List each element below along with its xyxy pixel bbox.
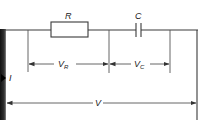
vr-label-sub: R bbox=[64, 64, 69, 70]
resistor-label: R bbox=[65, 11, 72, 21]
circuit-diagram: R C I VR VC V bbox=[0, 0, 204, 120]
resistor-symbol bbox=[51, 22, 88, 37]
vr-label: VR bbox=[58, 59, 69, 70]
v-total-label: V bbox=[95, 98, 102, 108]
capacitor-label: C bbox=[135, 11, 142, 21]
vc-label: VC bbox=[134, 59, 145, 70]
current-label: I bbox=[9, 73, 12, 83]
vc-label-sub: C bbox=[140, 64, 145, 70]
source-edge-bar bbox=[0, 29, 6, 120]
